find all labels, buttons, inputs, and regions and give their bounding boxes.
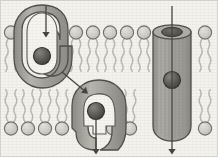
membrane-transport-figure (0, 0, 218, 157)
solute-molecule (34, 48, 51, 65)
solute-molecule (88, 103, 105, 120)
diagram-canvas (0, 0, 218, 157)
